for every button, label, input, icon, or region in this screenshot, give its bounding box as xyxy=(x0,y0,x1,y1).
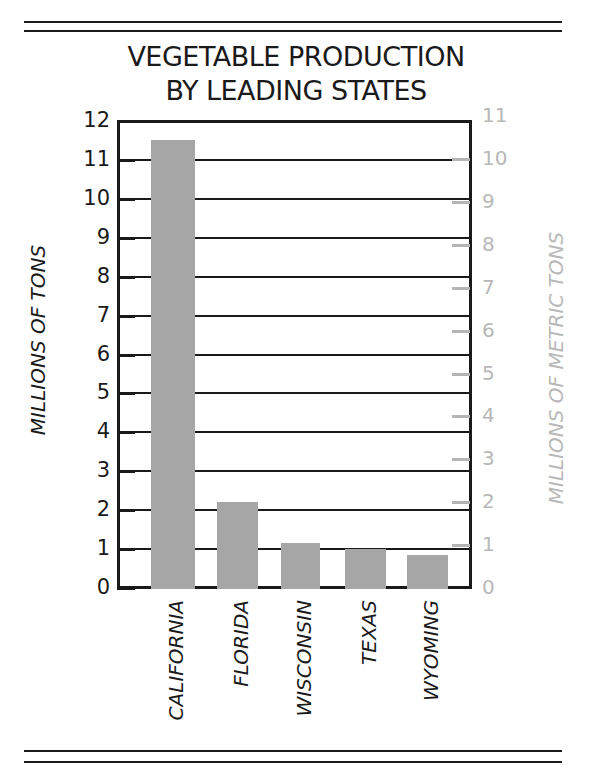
x-tick-label-text: CALIFORNIA xyxy=(164,600,188,720)
bar-california xyxy=(151,140,195,589)
right-tick xyxy=(452,158,470,161)
right-tick xyxy=(452,501,470,504)
left-tick-label: 9 xyxy=(70,226,110,248)
right-tick-label: 2 xyxy=(482,490,495,512)
right-tick-label: 1 xyxy=(482,533,495,555)
x-tick-label-text: WYOMING xyxy=(419,600,443,701)
right-tick xyxy=(452,244,470,247)
x-tick-label-florida: FLORIDA xyxy=(223,600,253,740)
left-tick xyxy=(117,587,135,590)
left-tick-label: 11 xyxy=(70,148,110,170)
left-tick-label: 5 xyxy=(70,381,110,403)
bar-florida xyxy=(217,502,258,589)
bar-texas xyxy=(345,549,386,589)
left-tick xyxy=(117,198,135,201)
right-tick-label: 7 xyxy=(482,276,495,298)
left-tick xyxy=(117,470,135,473)
left-tick-label: 2 xyxy=(70,498,110,520)
right-tick-label: 9 xyxy=(482,190,495,212)
left-tick xyxy=(117,315,135,318)
top-rule-1 xyxy=(24,21,562,23)
left-tick xyxy=(117,392,135,395)
left-tick-label: 1 xyxy=(70,537,110,559)
right-tick-label: 8 xyxy=(482,233,495,255)
bar-wyoming xyxy=(407,555,448,589)
right-tick xyxy=(452,373,470,376)
right-tick-label: 0 xyxy=(482,576,495,598)
left-tick-label: 12 xyxy=(70,109,110,131)
y-axis-right-title: MILLIONS OF METRIC TONS xyxy=(544,232,568,505)
right-tick-label: 10 xyxy=(482,147,507,169)
left-tick xyxy=(117,120,135,123)
right-tick xyxy=(452,330,470,333)
chart-title: VEGETABLE PRODUCTION BY LEADING STATES xyxy=(0,40,592,108)
left-tick xyxy=(117,354,135,357)
x-tick-label-california: CALIFORNIA xyxy=(158,600,188,740)
right-tick xyxy=(452,544,470,547)
bar-wisconsin xyxy=(281,543,320,589)
x-tick-label-text: WISCONSIN xyxy=(292,600,316,717)
left-tick-label: 8 xyxy=(70,265,110,287)
right-tick xyxy=(452,287,470,290)
left-tick-label: 7 xyxy=(70,304,110,326)
chart-title-line-1: VEGETABLE PRODUCTION xyxy=(0,40,592,74)
left-tick xyxy=(117,276,135,279)
right-tick-label: 11 xyxy=(482,104,507,126)
right-tick xyxy=(452,415,470,418)
left-tick xyxy=(117,548,135,551)
left-tick xyxy=(117,237,135,240)
left-tick-label: 10 xyxy=(70,187,110,209)
x-tick-label-wisconsin: WISCONSIN xyxy=(286,600,316,740)
right-tick-label: 5 xyxy=(482,362,495,384)
y-axis-left-title: MILLIONS OF TONS xyxy=(26,245,50,435)
right-tick xyxy=(452,458,470,461)
left-tick xyxy=(117,431,135,434)
x-tick-label-text: FLORIDA xyxy=(229,600,253,687)
left-tick-label: 3 xyxy=(70,459,110,481)
left-tick xyxy=(117,509,135,512)
bottom-rule-2 xyxy=(24,761,562,763)
x-tick-label-wyoming: WYOMING xyxy=(413,600,443,740)
x-tick-label-texas: TEXAS xyxy=(351,600,381,740)
left-tick-label: 0 xyxy=(70,576,110,598)
right-tick xyxy=(452,201,470,204)
left-tick xyxy=(117,159,135,162)
right-tick-label: 4 xyxy=(482,404,495,426)
top-rule-2 xyxy=(24,30,562,32)
left-tick-label: 4 xyxy=(70,420,110,442)
bottom-rule-1 xyxy=(24,750,562,752)
right-tick-label: 6 xyxy=(482,319,495,341)
right-tick-label: 3 xyxy=(482,447,495,469)
left-tick-label: 6 xyxy=(70,343,110,365)
x-tick-label-text: TEXAS xyxy=(357,600,381,665)
